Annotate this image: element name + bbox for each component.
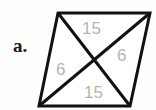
part-label-a: a. [13, 34, 47, 58]
segment-length-label-left: 6 [56, 61, 65, 79]
geometry-figure-container: a. 15 6 6 15 [0, 0, 156, 110]
segment-length-label-right: 6 [117, 47, 126, 65]
segment-length-label-top: 15 [82, 20, 101, 38]
segment-length-label-bottom: 15 [84, 84, 103, 102]
